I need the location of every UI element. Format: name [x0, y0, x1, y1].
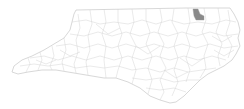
- north-carolina-county-map: [0, 0, 244, 109]
- state-outline: [12, 8, 240, 103]
